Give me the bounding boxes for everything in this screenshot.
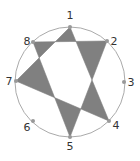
point-5-label: 5 [67,140,74,153]
point-5-marker [68,135,72,139]
point-2-label: 2 [111,35,118,48]
point-4-marker [107,119,111,123]
point-7-marker [14,79,18,83]
point-6-label: 6 [24,121,31,134]
point-8-marker [31,40,35,44]
point-2-marker [105,39,109,43]
point-7-label: 7 [6,75,13,88]
star-diagram: 12345678 [0,0,140,161]
point-3-marker [122,80,126,84]
point-8-label: 8 [24,35,31,48]
point-1-label: 1 [67,9,74,22]
point-6-marker [31,119,35,123]
point-3-label: 3 [128,76,135,89]
point-1-marker [68,25,72,29]
point-4-label: 4 [113,119,120,132]
